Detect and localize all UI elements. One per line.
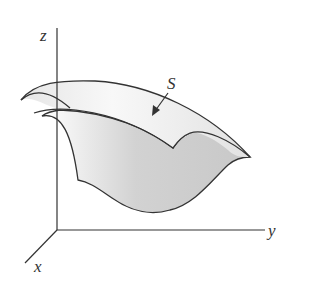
surface-label: S [167,75,176,92]
x-axis-label: x [34,258,42,275]
y-axis-label: y [268,222,276,239]
z-axis-label: z [40,27,47,44]
